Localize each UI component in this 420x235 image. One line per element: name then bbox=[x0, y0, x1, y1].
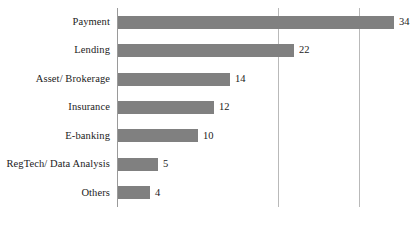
category-label: Payment bbox=[0, 17, 110, 28]
table-row: Lending 22 bbox=[0, 36, 420, 64]
category-label: E-banking bbox=[0, 131, 110, 142]
category-label: Lending bbox=[0, 45, 110, 56]
bar bbox=[118, 101, 214, 114]
table-row: Asset/ Brokerage 14 bbox=[0, 65, 420, 93]
value-label: 12 bbox=[219, 102, 230, 113]
table-row: E-banking 10 bbox=[0, 122, 420, 150]
value-label: 22 bbox=[299, 45, 310, 56]
bar-rows: Payment 34 Lending 22 Asset/ Brokerage 1… bbox=[0, 8, 420, 207]
table-row: RegTech/ Data Analysis 5 bbox=[0, 150, 420, 178]
bar-chart: Payment 34 Lending 22 Asset/ Brokerage 1… bbox=[0, 0, 420, 235]
category-label: Insurance bbox=[0, 102, 110, 113]
table-row: Others 4 bbox=[0, 179, 420, 207]
bar bbox=[118, 73, 230, 86]
category-label: Asset/ Brokerage bbox=[0, 74, 110, 85]
value-label: 4 bbox=[155, 188, 160, 199]
bar bbox=[118, 16, 394, 29]
category-label: RegTech/ Data Analysis bbox=[0, 159, 110, 170]
bar bbox=[118, 129, 198, 142]
value-label: 10 bbox=[203, 131, 214, 142]
table-row: Payment 34 bbox=[0, 8, 420, 36]
category-label: Others bbox=[0, 188, 110, 199]
bar bbox=[118, 186, 150, 199]
bar bbox=[118, 44, 294, 57]
table-row: Insurance 12 bbox=[0, 93, 420, 121]
bar bbox=[118, 158, 158, 171]
value-label: 34 bbox=[399, 17, 410, 28]
value-label: 14 bbox=[235, 74, 246, 85]
value-label: 5 bbox=[163, 159, 168, 170]
